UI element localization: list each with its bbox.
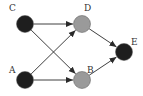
node-e (116, 44, 133, 61)
node-label-e: E (131, 37, 138, 47)
node-label-c: C (9, 3, 16, 13)
node-c (17, 16, 34, 33)
node-label-d: D (84, 3, 91, 13)
node-d (74, 16, 91, 33)
node-label-b: B (87, 65, 94, 75)
graph-canvas: CDEAB (0, 0, 143, 96)
labels-group: CDEAB (8, 3, 138, 75)
node-a (17, 72, 34, 89)
node-label-a: A (8, 65, 16, 75)
directed-graph-diagram: CDEAB (0, 0, 143, 96)
edges-group (31, 24, 116, 80)
edge-d-to-e (89, 29, 116, 47)
nodes-group (17, 16, 133, 89)
